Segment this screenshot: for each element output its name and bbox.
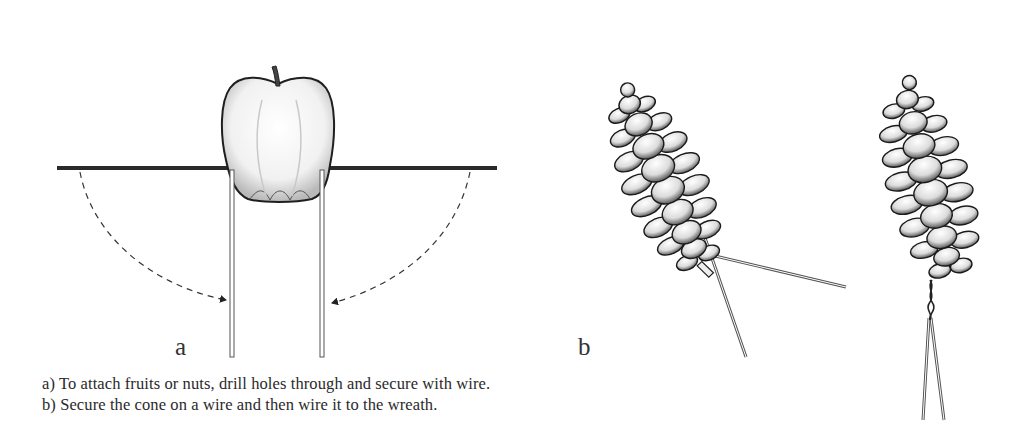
- figure-caption: a) To attach fruits or nuts, drill holes…: [42, 373, 490, 415]
- wire-end-left: [230, 170, 234, 357]
- panel-a-label: a: [175, 334, 186, 359]
- panel-a-apple-diagram: [57, 66, 497, 357]
- panel-b-cone-wiring: [583, 68, 846, 357]
- pine-cone-icon: [583, 68, 746, 295]
- caption-line-b: b) Secure the cone on a wire and then wi…: [42, 394, 490, 415]
- caption-line-a: a) To attach fruits or nuts, drill holes…: [42, 373, 490, 394]
- wire-end-right: [320, 170, 324, 357]
- panel-b-cone-finished: [861, 67, 992, 420]
- dashed-arrow-icon-left: [80, 172, 226, 300]
- pine-cone-icon-2: [861, 67, 992, 285]
- panel-b-label: b: [578, 334, 591, 359]
- illustration-canvas: [0, 0, 1024, 437]
- apple-icon: [222, 66, 334, 202]
- twisted-wire-icon: [928, 280, 934, 320]
- dashed-arrow-icon-right: [332, 172, 470, 303]
